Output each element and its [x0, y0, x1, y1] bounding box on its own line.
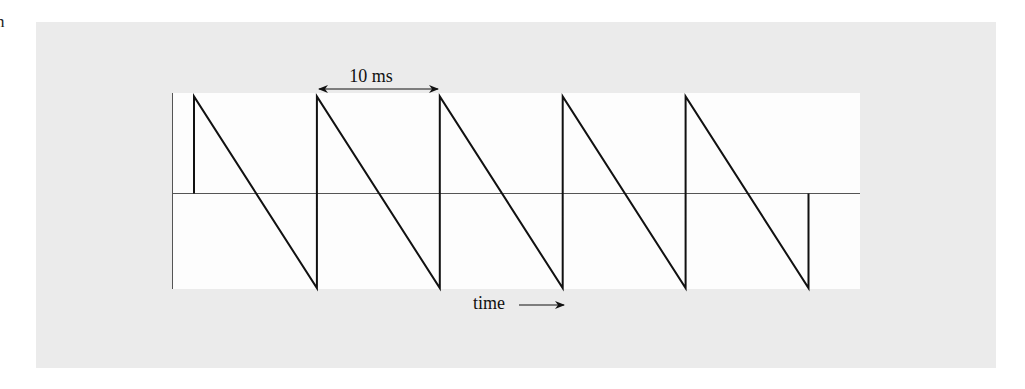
sawtooth-diagram: 10 ms time — [0, 0, 1025, 389]
plot-area — [172, 93, 860, 289]
time-axis-label: time — [473, 293, 505, 313]
period-label: 10 ms — [349, 66, 393, 86]
